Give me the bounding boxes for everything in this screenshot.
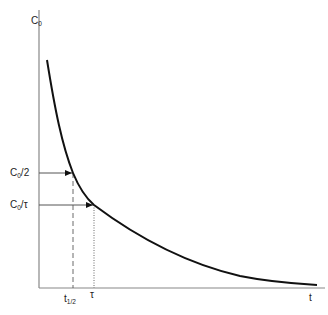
tau-label: C0/τ	[10, 199, 28, 211]
y-axis-label: C0	[31, 15, 42, 27]
x-axis-label: t	[309, 292, 312, 303]
half-label: C0/2	[10, 167, 30, 179]
half-life-tick-label: t1/2	[64, 293, 76, 305]
decay-chart: C0 C0/2 C0/τ t1/2 τ t	[0, 0, 328, 315]
tau-tick-label: τ	[90, 289, 94, 300]
decay-curve	[47, 60, 317, 285]
